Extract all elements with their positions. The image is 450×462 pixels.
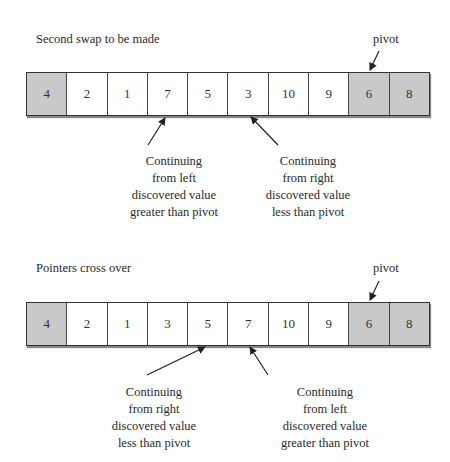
arrow-icon — [251, 117, 278, 145]
arrow-icon — [147, 347, 205, 375]
pivot-arrow-icon — [370, 51, 379, 70]
pivot-arrow-icon — [370, 281, 379, 300]
arrow-icon — [148, 118, 165, 145]
arrows-layer — [0, 0, 450, 462]
arrow-icon — [250, 347, 268, 375]
